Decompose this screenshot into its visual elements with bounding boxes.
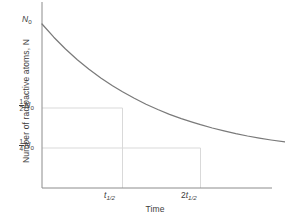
- x-tick-label-t-half: t1/2: [104, 190, 115, 200]
- x-tick-label-2t-half: 2t1/2: [181, 190, 197, 200]
- tick-t-half-subscript: 1/2: [106, 194, 115, 201]
- decay-curve: [42, 24, 285, 142]
- x-axis-title: Time: [105, 204, 205, 214]
- tick-2t-half-subscript: 1/2: [188, 194, 197, 201]
- label-n0: N0: [22, 14, 32, 24]
- label-n0-subscript: 0: [28, 18, 31, 25]
- y-axis-title: Number of radioactive atoms, N: [21, 27, 31, 175]
- decay-curve-figure: N0 12N0 14N0 t1/2 2t1/2 Number of radioa…: [0, 0, 285, 220]
- plot-area: [0, 0, 285, 220]
